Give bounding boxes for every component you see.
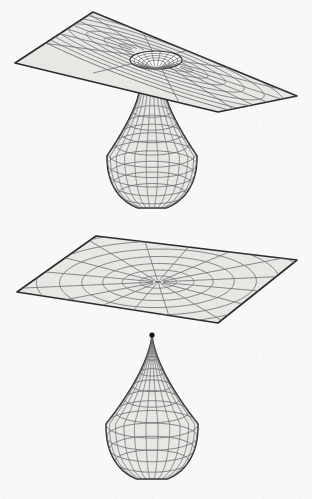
embedding-diagram-figure [0,0,312,499]
lower-plane-pinch-point [155,281,161,284]
lower-bulb-cusp-marker [149,332,154,337]
upper-bulb [107,92,197,208]
figure-root [0,0,312,499]
panel-upper [0,0,312,208]
panel-lower [0,209,312,479]
lower-plane [0,209,312,356]
lower-bulb [106,332,198,479]
